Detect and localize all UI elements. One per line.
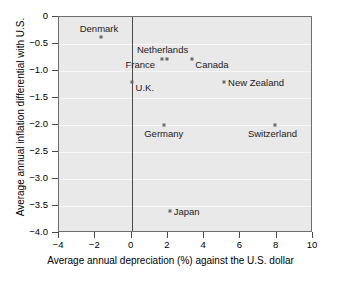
gridline-horizontal (59, 71, 311, 72)
data-point-label: France (126, 60, 156, 70)
data-point-label: Germany (144, 129, 183, 139)
data-point-marker[interactable] (160, 58, 163, 61)
y-axis-tick (52, 124, 58, 125)
y-axis-tick-label: −3.5 (29, 200, 48, 210)
y-axis-tick-label: −3.0 (29, 173, 48, 183)
y-axis-tick (52, 70, 58, 71)
x-axis-tick-label: 0 (128, 240, 133, 250)
y-axis-tick (52, 97, 58, 98)
x-axis-tick-label: 2 (164, 240, 169, 250)
x-axis-tick-label: 10 (307, 240, 318, 250)
zero-reference-line (132, 17, 133, 231)
gridline-horizontal (59, 152, 311, 153)
x-axis-tick (203, 232, 204, 238)
y-axis-tick-label: −4.0 (29, 227, 48, 237)
x-axis-tick (167, 232, 168, 238)
y-axis-tick-label: −0.5 (29, 38, 48, 48)
x-axis-tick (94, 232, 95, 238)
data-point-label: U.K. (136, 83, 154, 93)
gridline-horizontal (59, 98, 311, 99)
y-axis-tick-label: −1.5 (29, 92, 48, 102)
x-axis-tick-label: 8 (273, 240, 278, 250)
data-point-label: Switzerland (248, 129, 297, 139)
x-axis-tick-label: 4 (200, 240, 205, 250)
plot-area: DenmarkNetherlandsFranceCanadaU.K.New Ze… (58, 16, 312, 232)
x-axis-tick (312, 232, 313, 238)
y-axis-title: Average annual inflation differential wi… (16, 2, 26, 232)
y-axis-tick (52, 151, 58, 152)
data-point-label: Japan (174, 207, 200, 217)
y-axis-tick (52, 43, 58, 44)
data-point-marker[interactable] (130, 80, 133, 83)
scatter-chart-figure: DenmarkNetherlandsFranceCanadaU.K.New Ze… (0, 0, 341, 281)
x-axis-tick-label: 6 (237, 240, 242, 250)
data-point-marker[interactable] (223, 80, 226, 83)
data-point-marker[interactable] (163, 124, 166, 127)
data-point-label: Canada (195, 60, 228, 70)
data-point-marker[interactable] (168, 210, 171, 213)
data-point-label: Denmark (80, 24, 119, 34)
y-axis-tick (52, 178, 58, 179)
y-axis-tick-label: −1.0 (29, 65, 48, 75)
data-point-marker[interactable] (165, 58, 168, 61)
x-axis-tick (239, 232, 240, 238)
data-point-label: New Zealand (228, 78, 284, 88)
y-axis-tick-label: −2.0 (29, 119, 48, 129)
y-axis-tick (52, 205, 58, 206)
y-axis-tick (52, 16, 58, 17)
x-axis-tick (276, 232, 277, 238)
x-axis-tick-label: −2 (89, 240, 100, 250)
data-point-marker[interactable] (99, 35, 102, 38)
x-axis-title: Average annual depreciation (%) against … (0, 256, 341, 266)
x-axis-tick (58, 232, 59, 238)
data-point-label: Netherlands (137, 45, 188, 55)
y-axis-tick-label: 0 (43, 11, 48, 21)
data-point-marker[interactable] (273, 124, 276, 127)
gridline-horizontal (59, 179, 311, 180)
y-axis-tick-label: −2.5 (29, 146, 48, 156)
x-axis-tick-label: −4 (53, 240, 64, 250)
data-point-marker[interactable] (191, 58, 194, 61)
x-axis-tick (131, 232, 132, 238)
